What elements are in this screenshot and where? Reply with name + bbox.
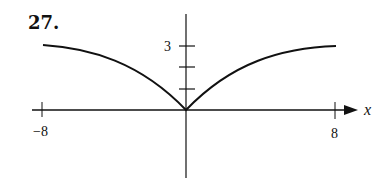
x-axis-arrow-icon [344, 105, 358, 115]
x-tick-label-neg8: −8 [33, 124, 48, 139]
x-tick-label-8: 8 [331, 126, 338, 141]
y-tick-label-3: 3 [164, 39, 171, 54]
curve [43, 45, 336, 110]
graph: −8 8 3 x [0, 0, 392, 183]
x-axis-label: x [363, 101, 371, 118]
